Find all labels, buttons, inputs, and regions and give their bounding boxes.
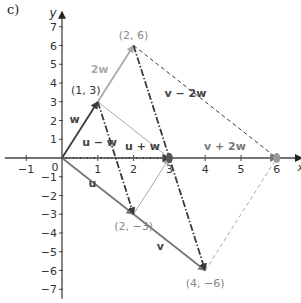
vector-label: w [69, 113, 79, 126]
y-axis-label: y [48, 6, 57, 20]
x-tick-label: 2 [130, 163, 137, 176]
point-label: (2, −3) [114, 220, 153, 233]
vector-label: v − 2w [165, 87, 207, 100]
y-tick-label: −6 [41, 265, 57, 278]
point-marker-3-0 [166, 153, 173, 163]
x-tick-label: 5 [238, 163, 245, 176]
point-label: (1, 3) [71, 84, 101, 97]
vector-diagram: xy−1123456−7−6−5−4−3−2−112345670 (1, 3)(… [0, 0, 301, 303]
y-tick-label: 7 [50, 21, 57, 34]
vector-w [62, 102, 98, 158]
y-tick-label: 3 [50, 96, 57, 109]
y-tick-label: 4 [50, 77, 57, 90]
vector-label: u + w [125, 140, 160, 153]
y-tick-label: −7 [41, 283, 57, 296]
x-tick-label: −1 [18, 163, 34, 176]
y-tick-label: −2 [41, 190, 57, 203]
y-tick-label: −4 [41, 227, 57, 240]
y-tick-label: 6 [50, 40, 57, 53]
point-label: (4, −6) [186, 277, 225, 290]
point-label: (2, 6) [119, 29, 149, 42]
vector-u-plus-w-bottom [134, 158, 170, 214]
x-axis-label: x [297, 161, 301, 174]
vector-label: u − w [82, 136, 117, 149]
y-tick-label: 1 [50, 133, 57, 146]
vector-label: 2w [91, 63, 109, 76]
x-tick-label: 6 [273, 163, 280, 176]
x-tick-label: 1 [94, 163, 101, 176]
y-tick-label: −5 [41, 246, 57, 259]
vector-label: v + 2w [204, 140, 246, 153]
y-tick-label: 5 [50, 58, 57, 71]
vector-label: v [157, 240, 165, 253]
segments [62, 46, 280, 271]
labels: (1, 3)(2, 6)(2, −3)(4, −6)w2wuvu − wu + … [69, 29, 245, 290]
vector-label: u [89, 177, 97, 190]
x-tick-label: 4 [202, 163, 209, 176]
y-tick-label: 2 [50, 115, 57, 128]
point-marker-6-0 [273, 153, 280, 163]
y-tick-label: −3 [41, 208, 57, 221]
origin-label: 0 [52, 161, 59, 174]
